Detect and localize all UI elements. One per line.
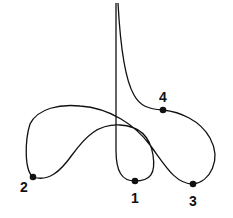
point-4-label: 4 [159,89,167,105]
point-2-label: 2 [20,179,28,195]
point-3-label: 3 [189,193,197,209]
curve-diagram: 1 2 3 4 [0,0,233,218]
point-1-label: 1 [131,190,139,206]
point-4-marker [160,107,167,114]
point-3-marker [190,181,197,188]
point-1-marker [132,178,139,185]
curve-path [26,3,215,184]
point-2-marker [30,174,37,181]
